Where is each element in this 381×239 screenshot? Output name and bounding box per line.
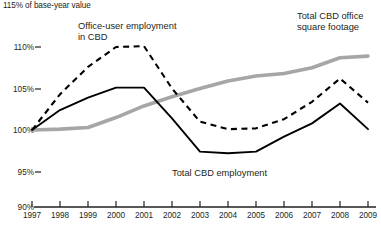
x-axis-tick-label-2009: 2009 [348, 211, 381, 220]
annotation-line-2: in CBD [78, 32, 177, 43]
annotation-total-cbd-employment: Total CBD employment [172, 168, 267, 179]
x-axis-tick-marks [32, 201, 368, 207]
chart-container: 115% of base-year value 110% 105% 100% 9… [0, 0, 381, 239]
y-axis-tick-marks [35, 47, 41, 172]
annotation-total-cbd-office-square-footage: Total CBD office square footage [297, 11, 364, 34]
annotation-line-2: square footage [297, 22, 364, 33]
annotation-line-1: Total CBD employment [172, 168, 267, 179]
annotation-office-user-employment: Office-user employment in CBD [78, 21, 177, 44]
chart-plot-area [0, 0, 381, 239]
annotation-line-1: Office-user employment [78, 21, 177, 32]
annotation-line-1: Total CBD office [297, 11, 364, 22]
